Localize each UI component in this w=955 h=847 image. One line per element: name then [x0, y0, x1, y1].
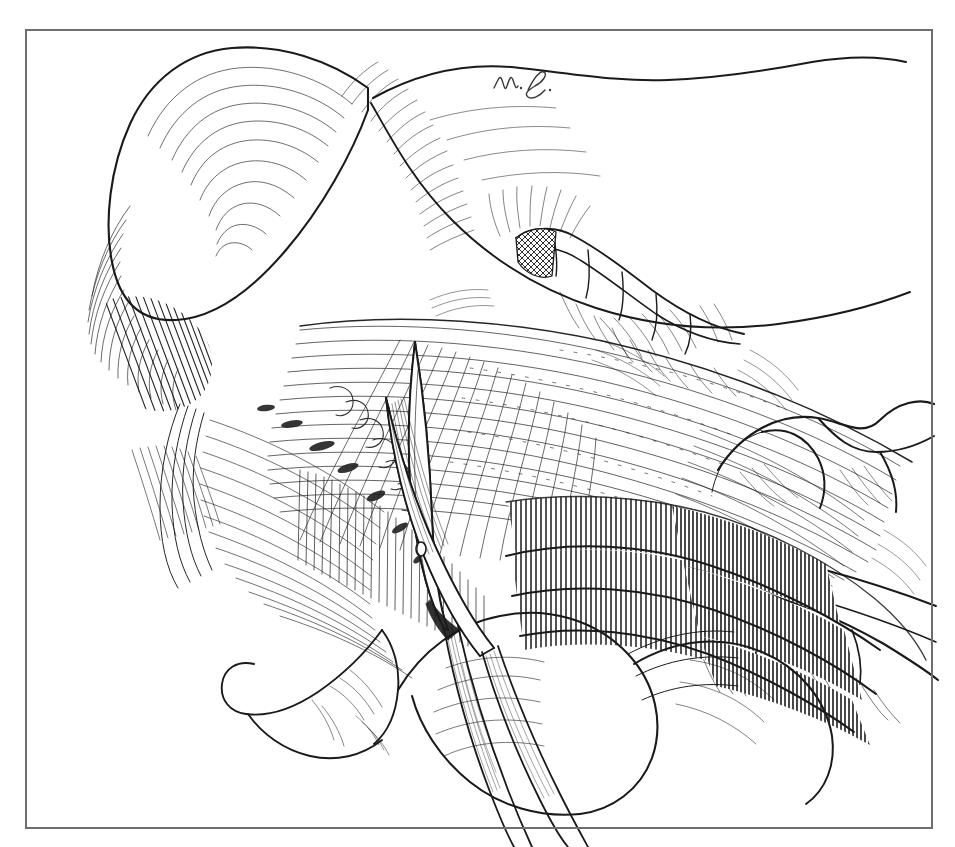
surgical-illustration-svg: [0, 0, 955, 847]
scissors-pivot-screw: [416, 542, 426, 556]
page-background: [0, 0, 955, 847]
illustration-plate: Division of the gastrocolic omentum with…: [0, 0, 955, 847]
